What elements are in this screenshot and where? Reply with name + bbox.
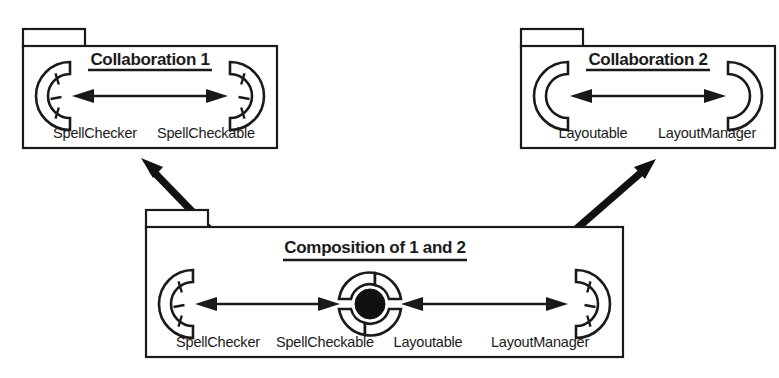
package-title: Collaboration 2: [588, 50, 707, 69]
package-composition[interactable]: Composition of 1 and 2 SpellCh: [146, 210, 623, 357]
package-title: Collaboration 1: [90, 50, 209, 69]
role-label-layoutable: Layoutable: [394, 334, 463, 350]
package-tab: [23, 29, 85, 47]
package-title: Composition of 1 and 2: [284, 238, 465, 257]
role-label-spellcheckable: SpellCheckable: [157, 125, 255, 141]
package-tab: [521, 29, 583, 47]
uml-diagram-canvas: Collaboration 1 SpellChecker SpellChecka…: [0, 0, 779, 378]
role-label-layoutmanager: LayoutManager: [491, 334, 590, 350]
role-label-spellchecker: SpellChecker: [176, 334, 260, 350]
package-tab: [146, 210, 208, 228]
role-label-layoutmanager: LayoutManager: [658, 125, 757, 141]
package-collaboration-2[interactable]: Collaboration 2 Layoutable LayoutManager: [521, 29, 775, 148]
role-label-spellcheckable: SpellCheckable: [276, 334, 374, 350]
role-label-layoutable: Layoutable: [559, 125, 628, 141]
role-label-spellchecker: SpellChecker: [53, 125, 137, 141]
diagram-svg: Collaboration 1 SpellChecker SpellChecka…: [0, 0, 779, 378]
package-collaboration-1[interactable]: Collaboration 1 SpellChecker SpellChecka…: [23, 29, 277, 148]
